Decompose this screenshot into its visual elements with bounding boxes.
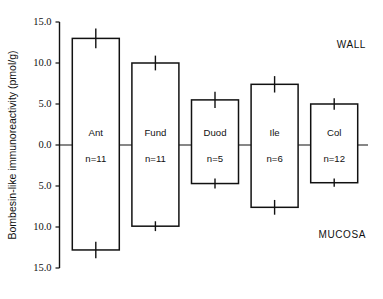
bombesin-bar-chart: 15.010.05.00.05.010.015.0 Bombesin-like …: [0, 0, 383, 299]
y-tick-label: 0.0: [38, 139, 51, 150]
bar-n-label: n=12: [323, 153, 345, 164]
bar-category-label: Ile: [270, 127, 280, 138]
bar-box: [192, 100, 239, 184]
bar-n-label: n=5: [207, 153, 223, 164]
bar-n-label: n=11: [85, 153, 106, 164]
bar-n-label: n=6: [266, 153, 282, 164]
bar-box: [72, 38, 119, 250]
bar-series-group: Antn=11Fundn=11Duodn=5Ilen=6Coln=12: [72, 29, 357, 259]
annotation-wall: WALL: [337, 39, 366, 50]
y-tick-label: 15.0: [33, 16, 51, 27]
bar-category-label: Duod: [204, 127, 227, 138]
y-tick-label: 5.0: [38, 180, 51, 191]
y-tick-label: 10.0: [33, 57, 51, 68]
y-tick-label: 10.0: [33, 221, 51, 232]
y-tick-label: 5.0: [38, 98, 51, 109]
bar-box: [251, 84, 298, 207]
y-axis-ticks: 15.010.05.00.05.010.015.0: [33, 16, 59, 273]
bar-category-label: Fund: [144, 127, 166, 138]
bar-category-label: Ant: [89, 127, 104, 138]
chart-figure: 15.010.05.00.05.010.015.0 Bombesin-like …: [0, 0, 383, 299]
bar-box: [132, 63, 179, 226]
bar-category-label: Col: [327, 127, 341, 138]
annotation-mucosa: MUCOSA: [319, 229, 367, 240]
y-tick-label: 15.0: [33, 262, 51, 273]
y-axis-title: Bombesin-like immunoreactivity (pmol/g): [6, 50, 18, 239]
bar-box: [311, 104, 358, 183]
bar-n-label: n=11: [145, 153, 166, 164]
